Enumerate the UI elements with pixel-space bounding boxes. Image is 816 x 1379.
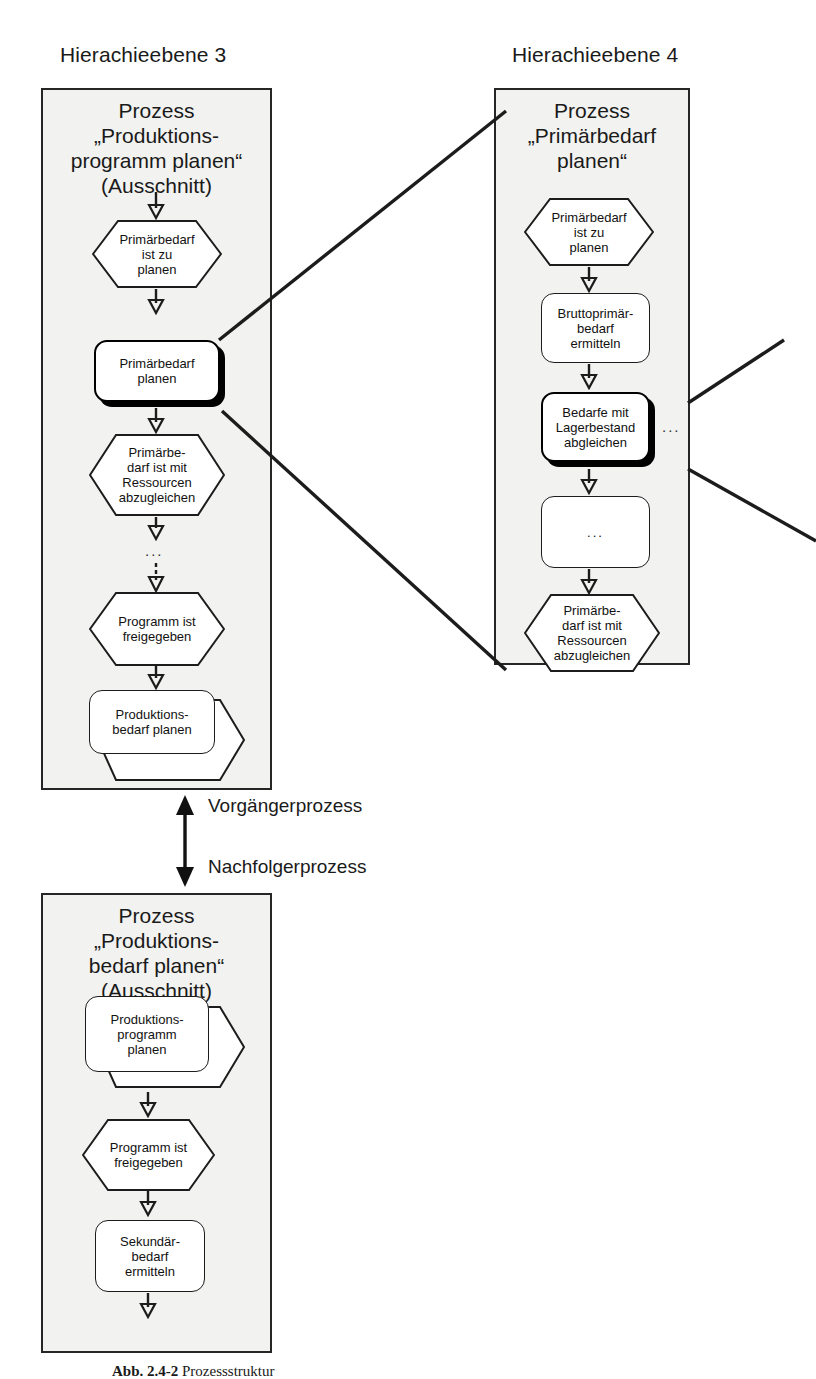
diagram-canvas: Hierachieebene 3 Hierachieebene 4 Prozes… — [0, 0, 816, 1379]
refinement-connector-lines — [0, 0, 816, 1379]
